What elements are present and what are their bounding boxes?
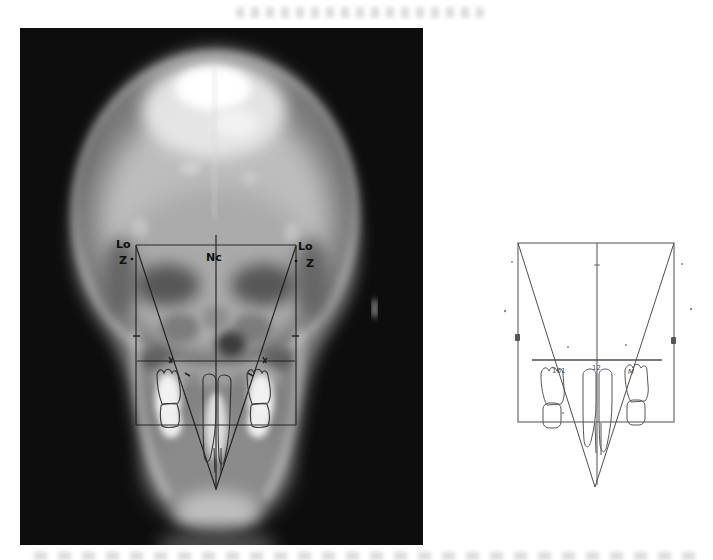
incisor-left-outline	[583, 369, 596, 447]
molar-marker-left	[515, 334, 520, 341]
label-lo-left: Lo	[116, 238, 131, 251]
incisor-root-left	[595, 423, 596, 453]
diagonal-left	[518, 243, 595, 487]
tracing-diagram-panel: 101 12 M	[495, 233, 695, 495]
radiograph-panel: Lo Lo Z Z Nc	[20, 28, 423, 545]
molar-left-root	[543, 403, 561, 428]
tracing-diagram: 101 12 M	[495, 233, 695, 495]
label-nc: Nc	[206, 251, 222, 264]
bleedthrough-artifact-top	[236, 7, 484, 18]
bleedthrough-artifact-bottom	[34, 552, 706, 560]
z-point-dot-left	[131, 258, 134, 261]
scanned-figure-page: Lo Lo Z Z Nc	[0, 0, 713, 560]
diagram-labels: 101 12 M	[552, 364, 634, 376]
label-z-right: Z	[306, 257, 314, 270]
label-lo-right: Lo	[298, 240, 313, 253]
label-left-molar: 101	[552, 367, 565, 375]
film-marker	[373, 300, 377, 317]
label-central-incisor: 12	[592, 364, 601, 372]
edge-markers	[515, 334, 676, 344]
skull-radiograph: Lo Lo Z Z Nc	[20, 28, 423, 545]
z-point-dot-right	[295, 260, 298, 263]
label-right-molar: M	[628, 368, 634, 376]
diagram-teeth	[541, 364, 648, 455]
print-specks	[504, 261, 692, 414]
label-z-left: Z	[119, 254, 127, 267]
molar-right-root	[627, 400, 645, 425]
molar-marker-right	[671, 337, 676, 344]
